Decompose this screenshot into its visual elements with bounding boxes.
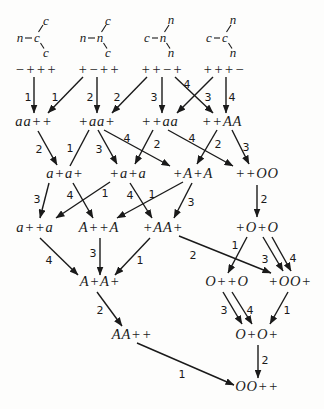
edge-label: 1 xyxy=(179,368,186,381)
edge-label: 2 xyxy=(36,143,43,156)
structure-2: n n c c xyxy=(80,13,111,60)
atom-left: c xyxy=(144,30,150,45)
edge-label: 4 xyxy=(189,132,196,145)
edge-arrow xyxy=(40,183,49,218)
node-label: ++aa xyxy=(141,113,178,129)
edge-label: 3 xyxy=(262,253,269,266)
node-label: +O+O xyxy=(235,219,279,235)
node-label: aa++ xyxy=(15,113,52,129)
structure-3: c n n n xyxy=(144,12,174,60)
atom-center: c xyxy=(34,30,40,45)
atom-top: c xyxy=(105,13,111,28)
edge-label: 2 xyxy=(261,193,268,206)
edge-label: 3 xyxy=(90,247,97,260)
edge-label: 2 xyxy=(262,354,269,367)
node-label: A++A xyxy=(78,219,119,235)
atom-left: n xyxy=(80,30,87,45)
node-label: +A+A xyxy=(173,165,213,181)
node-label: a+a+ xyxy=(46,165,83,181)
node-label: ++AA xyxy=(202,113,242,129)
edge-label: 4 xyxy=(184,78,191,91)
edge-arrow xyxy=(272,237,291,271)
edge-label: 1 xyxy=(137,254,144,267)
edge-label: 4 xyxy=(290,252,297,265)
edge-label: 1 xyxy=(232,239,239,252)
edge-arrow xyxy=(135,130,153,164)
edge-label: 2 xyxy=(97,304,104,317)
edge-label: 3 xyxy=(96,143,103,156)
nodes: −+++ +−++ ++−+ +++− aa++ +aa+ ++aa ++AA … xyxy=(15,61,312,394)
edge-label: 1 xyxy=(149,188,156,201)
atom-center: c xyxy=(222,30,228,45)
edge-label: 2 xyxy=(114,91,121,104)
node-label: +aa+ xyxy=(78,113,115,129)
edge-arrow xyxy=(137,343,234,385)
edge-arrow xyxy=(168,130,233,166)
edge-label: 1 xyxy=(25,91,32,104)
edge-label: 4 xyxy=(127,189,134,202)
isomer-reaction-diagram: n c c c n n c c c n n n c c n n −+++ +−+… xyxy=(0,0,324,409)
atom-bottom: c xyxy=(43,45,49,60)
edge-label: 2 xyxy=(215,138,222,151)
node-label: −+++ xyxy=(15,61,57,77)
node-label: ++OO xyxy=(235,165,279,181)
edge-label: 3 xyxy=(188,196,195,209)
atom-bottom: n xyxy=(168,45,175,60)
structure-4: c c n n xyxy=(206,12,236,60)
edge-label: 3 xyxy=(151,91,158,104)
node-label: AA++ xyxy=(111,326,152,342)
edge-label: 2 xyxy=(190,249,197,262)
atom-top: c xyxy=(43,13,49,28)
atom-center: n xyxy=(97,30,104,45)
edge-label: 4 xyxy=(124,132,131,145)
atom-top: n xyxy=(168,12,175,27)
edge-label: 1 xyxy=(67,142,74,155)
edge-label: 4 xyxy=(247,304,254,317)
edge-label: 1 xyxy=(102,187,109,200)
edge-label: 4 xyxy=(67,189,74,202)
edge-label: 1 xyxy=(284,304,291,317)
node-label: +a+a xyxy=(109,165,146,181)
node-label: +−++ xyxy=(78,61,120,77)
edge-label: 4 xyxy=(46,254,53,267)
node-label: a++a xyxy=(16,219,53,235)
atom-top: n xyxy=(230,12,237,27)
node-label: +++− xyxy=(203,61,245,77)
node-label: OO++ xyxy=(235,378,279,394)
edge-label: 3 xyxy=(243,141,250,154)
edge-label: 3 xyxy=(34,193,41,206)
edge-label: 1 xyxy=(52,91,59,104)
edge-label: 3 xyxy=(221,304,228,317)
node-label: O++O xyxy=(205,273,249,289)
edge-arrow xyxy=(115,238,150,275)
atom-center: n xyxy=(160,30,167,45)
node-label: +AA+ xyxy=(143,219,183,235)
node-label: ++−+ xyxy=(141,61,183,77)
node-label: +OO+ xyxy=(268,273,312,289)
structure-1: n c c c xyxy=(17,13,49,60)
atom-bottom: c xyxy=(105,45,111,60)
edge-label: 4 xyxy=(229,91,236,104)
atom-left: c xyxy=(206,30,212,45)
atom-left: n xyxy=(17,30,24,45)
edge-label: 3 xyxy=(205,91,212,104)
edge-label: 2 xyxy=(154,138,161,151)
node-label: A+A+ xyxy=(79,273,120,289)
atom-bottom: n xyxy=(230,45,237,60)
edge-label: 2 xyxy=(87,91,94,104)
node-label: O+O+ xyxy=(235,326,279,342)
